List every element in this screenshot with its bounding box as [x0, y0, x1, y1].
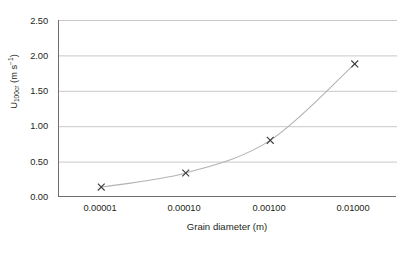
y-axis-superscript: −1	[7, 57, 14, 65]
y-axis-units-open: (m s	[9, 65, 19, 86]
gridlines	[59, 21, 397, 163]
y-tick-label: 2.50	[0, 16, 48, 26]
x-axis-tick-labels: 0.00001 0.00010 0.00100 0.01000	[58, 203, 396, 217]
y-axis-title: U100cr (m s−1)	[9, 22, 20, 142]
y-tick-label: 0.50	[0, 157, 48, 167]
series-line	[101, 64, 355, 187]
plot-svg	[59, 20, 397, 197]
data-point-markers	[98, 60, 358, 190]
data-point-marker	[351, 60, 358, 67]
x-tick-label: 0.00010	[142, 203, 226, 214]
y-axis-symbol: U	[9, 102, 19, 109]
y-tick-label: 1.50	[0, 86, 48, 96]
x-tick-label: 0.01000	[311, 203, 395, 214]
x-tick-label: 0.00100	[227, 203, 311, 214]
y-tick-label: 0.00	[0, 192, 48, 202]
data-point-marker	[182, 170, 189, 177]
x-tick-label: 0.00001	[58, 203, 142, 214]
data-point-marker	[267, 137, 274, 144]
x-axis-title: Grain diameter (m)	[58, 221, 396, 233]
chart-figure: 2.50 2.00 1.50 1.00 0.50 0.00 U100cr (m …	[0, 0, 410, 255]
y-tick-label: 1.00	[0, 121, 48, 131]
plot-area	[58, 20, 396, 197]
y-axis-subscript: 100cr	[13, 86, 20, 103]
